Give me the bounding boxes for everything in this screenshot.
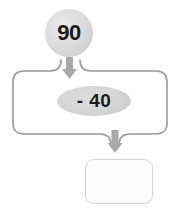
- operation-node: - 40: [57, 86, 131, 116]
- answer-box[interactable]: [85, 159, 153, 204]
- arrow-input-to-operation: [62, 57, 77, 79]
- answer-value-label: [86, 160, 152, 203]
- function-machine-diagram: 90 - 40: [0, 0, 178, 219]
- operation-label: - 40: [77, 91, 112, 110]
- arrow-operation-to-output: [108, 130, 123, 153]
- input-value-label: 90: [57, 22, 80, 44]
- input-value-node: 90: [45, 9, 93, 57]
